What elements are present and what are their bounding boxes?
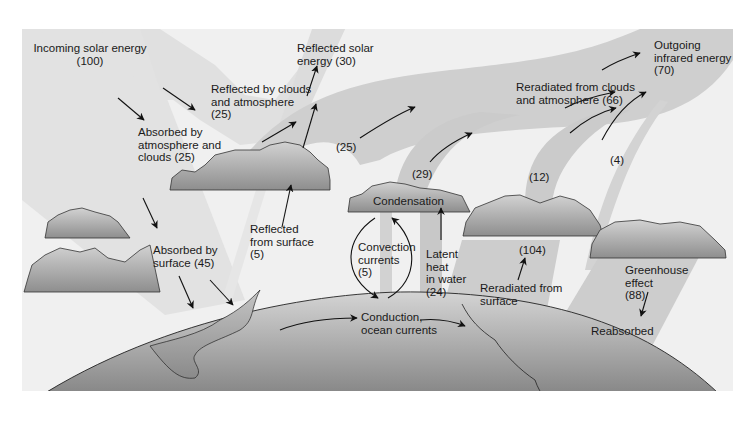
label-absorbed-atmosphere: Absorbed by atmosphere and clouds (25) (138, 126, 221, 164)
label-absorbed-surface: Absorbed by surface (45) (153, 244, 218, 269)
label-flow-104: (104) (519, 244, 546, 257)
label-reradiated-clouds: Reradiated from clouds and atmosphere (6… (516, 81, 635, 106)
label-reradiated-surface: Reradiated from surface (480, 282, 562, 307)
label-flow-25: (25) (336, 141, 356, 154)
label-flow-4: (4) (610, 154, 624, 167)
label-reflected-clouds: Reflected by clouds and atmosphere (25) (211, 83, 311, 121)
label-flow-12: (12) (529, 171, 549, 184)
label-latent-heat: Latent heat in water (24) (426, 248, 466, 298)
label-condensation: Condensation (373, 195, 444, 208)
label-flow-29: (29) (412, 168, 432, 181)
label-reabsorbed: Reabsorbed (591, 325, 654, 338)
label-convection: Convection currents (5) (358, 241, 416, 279)
label-conduction: Conduction, ocean currents (361, 311, 437, 336)
label-greenhouse: Greenhouse effect (88) (625, 264, 688, 302)
label-reflected-solar: Reflected solar energy (30) (297, 42, 374, 67)
label-reflected-surface: Reflected from surface (5) (250, 223, 314, 261)
label-outgoing-ir: Outgoing infrared energy (70) (654, 39, 731, 77)
energy-balance-diagram: Incoming solar energy (100) Reflected so… (0, 0, 753, 426)
label-incoming-solar: Incoming solar energy (100) (30, 42, 150, 67)
